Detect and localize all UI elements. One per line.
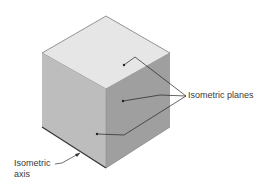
isometric-cube-figure: Isometric planes Isometric axis <box>0 0 268 191</box>
leader-axis <box>55 153 80 164</box>
isometric-axis-label: Isometric axis <box>14 158 51 180</box>
isometric-planes-label: Isometric planes <box>188 90 254 101</box>
isometric-axis-label-line1: Isometric <box>14 158 51 169</box>
isometric-axis-label-line2: axis <box>14 169 51 180</box>
